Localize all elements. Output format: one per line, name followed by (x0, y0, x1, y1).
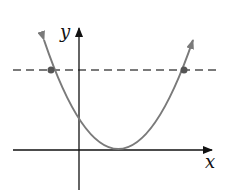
intersection-point-right (181, 67, 188, 74)
y-axis-label: y (59, 21, 71, 42)
x-axis-label: x (205, 151, 215, 172)
parabola-curve (44, 40, 193, 149)
function-graph: y x (0, 0, 235, 190)
intersection-point-left (48, 67, 55, 74)
